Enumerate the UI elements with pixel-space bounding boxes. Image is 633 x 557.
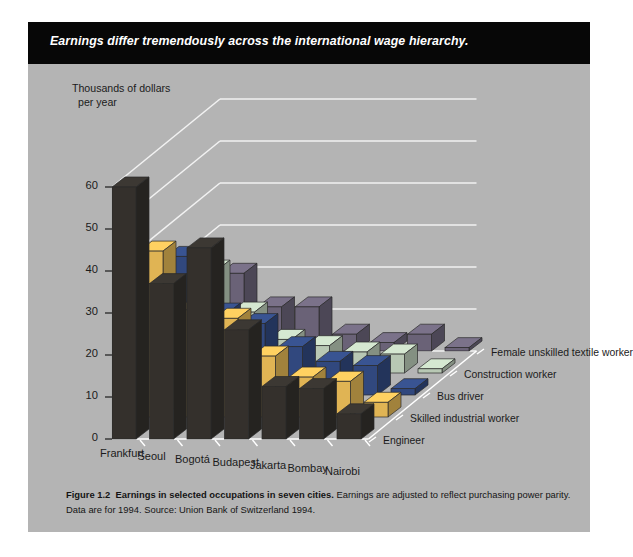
x-tick-mark <box>253 440 258 446</box>
figure-panel: Thousands of dollars per year 6050403020… <box>28 64 590 532</box>
bar-front-face <box>150 284 174 439</box>
y-axis-label-line1: Thousands of dollars <box>72 82 170 94</box>
bar-side-face <box>249 320 262 439</box>
x-tick-mark <box>328 440 333 446</box>
gridline-depth <box>112 99 220 187</box>
x-tick-mark <box>290 440 295 446</box>
y-tick-label: 60 <box>72 179 98 191</box>
bar-front-face <box>337 414 361 439</box>
y-tick-label: 20 <box>72 347 98 359</box>
chart-3d-bar: Thousands of dollars per year 6050403020… <box>28 64 590 484</box>
bar[interactable] <box>418 359 455 373</box>
legend-label[interactable]: Engineer <box>383 435 425 446</box>
bar[interactable] <box>445 338 482 351</box>
figure-banner: Earnings differ tremendously across the … <box>28 22 590 64</box>
bar[interactable] <box>262 377 299 440</box>
bar[interactable] <box>300 379 337 439</box>
caption-title: Earnings in selected occupations in seve… <box>116 489 334 500</box>
bar-front-face <box>418 369 442 373</box>
bar-side-face <box>174 274 187 439</box>
bar-side-face <box>324 379 337 439</box>
y-tick-label: 30 <box>72 305 98 317</box>
bar-side-face <box>286 377 299 440</box>
y-tick-label: 50 <box>72 221 98 233</box>
y-axis-label-line2: per year <box>78 96 117 108</box>
legend-tick <box>477 349 484 354</box>
bar-front-face <box>225 330 249 439</box>
bars-layer <box>112 177 482 439</box>
bar-front-face <box>445 348 469 351</box>
legend-label[interactable]: Construction worker <box>464 369 556 380</box>
x-tick-mark <box>215 440 220 446</box>
legend-label[interactable]: Bus driver <box>437 391 484 402</box>
y-tick-label: 10 <box>72 389 98 401</box>
bar-front-face <box>112 187 136 439</box>
x-category-label: Bogotá <box>175 453 210 465</box>
banner-title: Earnings differ tremendously across the … <box>50 34 469 48</box>
x-tick-mark <box>140 440 145 446</box>
x-category-label: Bombay <box>288 462 328 474</box>
y-tick-label: 0 <box>72 431 98 443</box>
bar[interactable] <box>112 177 149 439</box>
bar-side-face <box>136 177 149 439</box>
legend-label[interactable]: Skilled industrial worker <box>410 413 519 424</box>
legend-label[interactable]: Female unskilled textile worker <box>491 347 633 358</box>
caption-figure-label: Figure 1.2 <box>66 489 110 500</box>
bar-side-face <box>211 238 224 439</box>
bar-front-face <box>262 387 286 440</box>
bar[interactable] <box>187 238 224 439</box>
x-category-label: Jakarta <box>250 459 286 471</box>
figure-caption: Figure 1.2 Earnings in selected occupati… <box>66 488 574 517</box>
y-tick-label: 40 <box>72 263 98 275</box>
bar-front-face <box>187 248 211 439</box>
bar[interactable] <box>225 320 262 439</box>
x-category-label: Nairobi <box>325 465 360 477</box>
bar-front-face <box>300 389 324 439</box>
x-category-label: Seoul <box>138 450 166 462</box>
bar[interactable] <box>150 274 187 439</box>
x-tick-mark <box>365 440 370 446</box>
x-tick-mark <box>178 440 183 446</box>
